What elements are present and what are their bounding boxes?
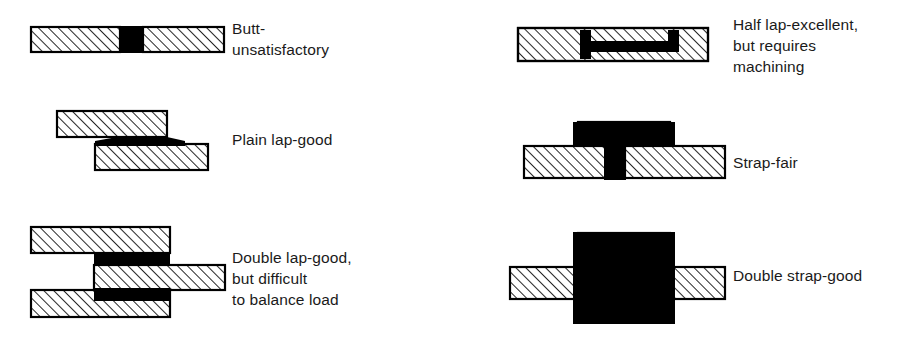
double-lap-joint-label: Double lap-good, but difficult to balanc… xyxy=(232,247,352,310)
double-strap-joint-drawing xyxy=(510,232,725,324)
double-strap-bottom-plate xyxy=(578,300,670,322)
plain-lap-joint-drawing xyxy=(57,111,208,170)
butt-adhesive-layer xyxy=(120,26,143,53)
strap-joint-drawing xyxy=(524,122,725,180)
double-lap-joint-drawing xyxy=(31,227,225,317)
double-strap-right-plate xyxy=(627,267,725,299)
strap-right-plate xyxy=(625,146,725,178)
plain-lap-joint-label: Plain lap-good xyxy=(232,129,333,150)
double-lap-top-plate xyxy=(31,227,170,253)
plain-lap-lower-plate xyxy=(95,144,208,170)
strap-joint-label: Strap-fair xyxy=(733,152,798,173)
plain-lap-upper-plate xyxy=(57,111,167,137)
strap-left-plate xyxy=(524,146,606,178)
double-strap-left-plate xyxy=(510,267,606,299)
half-lap-joint-label: Half lap-excellent, but requires machini… xyxy=(733,14,858,77)
adhesive-joints-figure: Butt- unsatisfactory Plain lap-good Doub… xyxy=(0,0,901,357)
butt-left-plate xyxy=(31,27,120,52)
strap-cover-plate xyxy=(578,122,670,142)
double-lap-bottom-plate xyxy=(31,290,170,317)
double-lap-middle-plate xyxy=(94,265,225,290)
double-strap-joint-label: Double strap-good xyxy=(733,265,862,286)
butt-right-plate xyxy=(143,27,224,52)
strap-gap-adhesive xyxy=(604,140,626,180)
half-lap-joint-drawing xyxy=(518,28,708,61)
butt-joint-drawing xyxy=(31,26,224,53)
double-strap-top-plate xyxy=(578,233,670,255)
butt-joint-label: Butt- unsatisfactory xyxy=(232,18,329,60)
